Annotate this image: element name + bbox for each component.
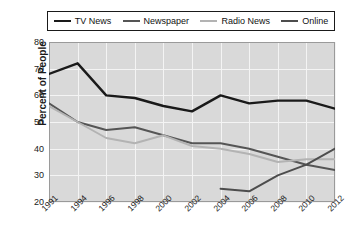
y-axis-title: Percent of People (37, 24, 48, 144)
legend-swatch-icon (123, 20, 140, 22)
legend-label: Radio News (221, 17, 270, 26)
series-lines (49, 42, 335, 202)
legend-swatch-icon (281, 20, 298, 22)
y-tick-label: 30 (20, 171, 44, 180)
series-line-tv-news (49, 63, 335, 111)
chart-legend: TV NewsNewspaperRadio NewsOnline (47, 11, 335, 31)
legend-item-online[interactable]: Online (281, 17, 328, 26)
gridline-vertical (335, 42, 336, 202)
y-tick-label: 40 (20, 145, 44, 154)
legend-swatch-icon (200, 20, 217, 22)
legend-label: TV News (75, 17, 112, 26)
legend-item-newspaper[interactable]: Newspaper (123, 17, 190, 26)
series-line-radio-news (49, 106, 335, 162)
legend-swatch-icon (54, 20, 71, 22)
legend-label: Online (302, 17, 328, 26)
legend-item-radio-news[interactable]: Radio News (200, 17, 270, 26)
legend-label: Newspaper (144, 17, 190, 26)
series-line-online (221, 149, 335, 192)
legend-item-tv-news[interactable]: TV News (54, 17, 112, 26)
